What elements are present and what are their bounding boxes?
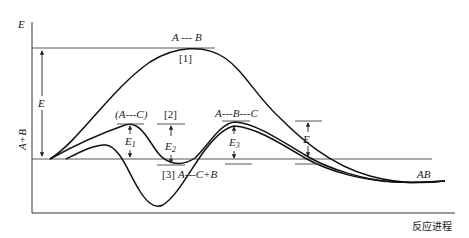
reactant-label: A+B	[16, 129, 28, 151]
curve-3-tag: [3]	[162, 168, 175, 180]
abc-complex-label: A---B---C	[214, 107, 258, 119]
y-axis-label: E	[17, 18, 25, 30]
ac-complex-label: (A---C)	[115, 108, 148, 121]
x-axis-label: 反应进程	[412, 220, 452, 232]
curve-1-tag: [1]	[179, 52, 192, 64]
right-energy-label: E	[302, 133, 310, 145]
transition-state-ab-label: A --- B	[171, 31, 202, 43]
e1-label: E1	[124, 135, 136, 149]
product-label: AB	[416, 168, 431, 180]
ac-plus-b-label: A---C+B	[177, 168, 217, 180]
energy-profile-diagram: E 反应进程 A+B E A --- B [1] (A---C) E1 [2] …	[0, 0, 469, 238]
curve-3	[66, 126, 445, 206]
curve-2	[50, 122, 445, 182]
e2-label: E2	[164, 140, 176, 154]
curve-2-tag: [2]	[164, 108, 177, 120]
e3-label: E3	[228, 136, 240, 150]
left-energy-label: E	[37, 97, 45, 109]
